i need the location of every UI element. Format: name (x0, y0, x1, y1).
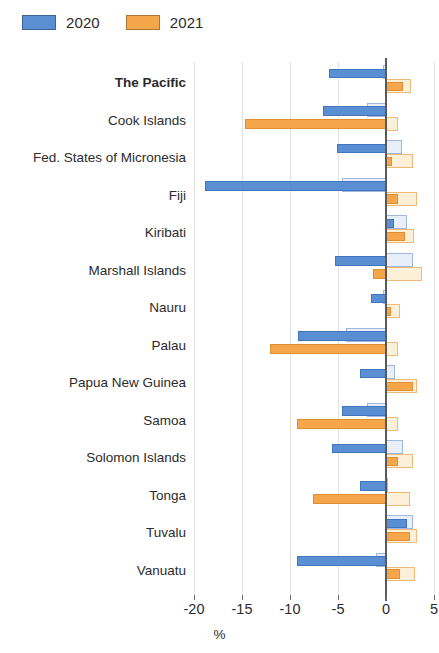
bar-2021 (386, 82, 403, 92)
category-label: Marshall Islands (0, 264, 186, 278)
category-label: Solomon Islands (0, 451, 186, 465)
bar-2021-outline (386, 267, 422, 281)
x-axis-title: % (0, 627, 439, 642)
legend-label-2021: 2021 (170, 14, 204, 31)
chart-row: Palau (0, 327, 439, 365)
category-label: Vanuatu (0, 564, 186, 578)
bar-2020-outline (386, 440, 403, 454)
x-tick-label: 5 (430, 601, 438, 617)
legend-item-2020: 2020 (22, 14, 100, 31)
legend-swatch-2020 (22, 15, 56, 30)
x-tick-label: -5 (332, 601, 345, 617)
bar-2021 (270, 344, 386, 354)
legend-item-2021: 2021 (126, 14, 204, 31)
x-tick-mark (290, 595, 291, 600)
category-label: Kiribati (0, 226, 186, 240)
bar-2020 (386, 219, 394, 229)
x-tick-label: -15 (232, 601, 253, 617)
bar-chart: 2020 2021 The PacificCook IslandsFed. St… (0, 0, 439, 653)
legend-swatch-2021 (126, 15, 160, 30)
bar-2020-outline (386, 253, 413, 267)
bar-2021 (313, 494, 386, 504)
chart-row: Fiji (0, 177, 439, 215)
bar-2020 (342, 406, 386, 416)
bar-2021 (373, 269, 386, 279)
x-tick-label: 0 (382, 601, 390, 617)
bar-2021-outline (386, 342, 398, 356)
bar-2020 (335, 256, 386, 266)
bar-2021 (386, 194, 398, 204)
bar-2021 (386, 569, 400, 579)
bar-2020 (360, 481, 386, 491)
x-tick-mark (434, 595, 435, 600)
bar-2021 (386, 232, 405, 242)
bar-2020-outline (386, 140, 402, 154)
chart-row: Tonga (0, 477, 439, 515)
bar-2020 (298, 331, 386, 341)
bar-2021 (297, 419, 386, 429)
legend-label-2020: 2020 (66, 14, 100, 31)
x-tick-label: -20 (184, 601, 205, 617)
x-axis: -20-15-10-505 % (0, 595, 439, 653)
bar-2021-outline (386, 417, 398, 431)
category-rows: The PacificCook IslandsFed. States of Mi… (0, 62, 439, 595)
chart-row: Cook Islands (0, 102, 439, 140)
chart-row: Vanuatu (0, 552, 439, 590)
chart-row: Solomon Islands (0, 439, 439, 477)
category-label: The Pacific (0, 76, 186, 90)
category-label: Samoa (0, 414, 186, 428)
x-tick-mark (242, 595, 243, 600)
bar-2021 (245, 119, 386, 129)
chart-row: Nauru (0, 289, 439, 327)
bar-2021-outline (386, 492, 410, 506)
x-tick-mark (194, 595, 195, 600)
chart-row: Papua New Guinea (0, 364, 439, 402)
plot-area: The PacificCook IslandsFed. States of Mi… (0, 62, 439, 595)
category-label: Nauru (0, 301, 186, 315)
bar-2020 (360, 369, 386, 379)
bar-2020 (337, 144, 386, 154)
chart-row: Fed. States of Micronesia (0, 139, 439, 177)
x-tick-mark (386, 595, 387, 600)
bar-2021 (386, 532, 410, 542)
chart-row: The Pacific (0, 64, 439, 102)
category-label: Fed. States of Micronesia (0, 151, 186, 165)
bar-2020 (205, 181, 386, 191)
bar-2020-outline (386, 365, 395, 379)
chart-row: Marshall Islands (0, 252, 439, 290)
bar-2020 (297, 556, 386, 566)
bar-2021 (386, 157, 392, 167)
bar-2020 (329, 69, 386, 79)
chart-row: Samoa (0, 402, 439, 440)
bar-2021-outline (386, 117, 398, 131)
chart-legend: 2020 2021 (22, 14, 204, 31)
chart-row: Kiribati (0, 214, 439, 252)
category-label: Papua New Guinea (0, 376, 186, 390)
bar-2021 (386, 457, 398, 467)
x-tick-label: -10 (280, 601, 301, 617)
bar-2021 (386, 382, 413, 392)
bar-2020 (371, 294, 386, 304)
chart-row: Tuvalu (0, 514, 439, 552)
bar-2020 (332, 444, 386, 454)
bar-2020 (386, 519, 407, 529)
x-tick-mark (338, 595, 339, 600)
category-label: Tuvalu (0, 526, 186, 540)
category-label: Tonga (0, 489, 186, 503)
zero-axis-line (385, 58, 387, 601)
category-label: Palau (0, 339, 186, 353)
category-label: Cook Islands (0, 114, 186, 128)
bar-2020 (323, 106, 386, 116)
category-label: Fiji (0, 189, 186, 203)
